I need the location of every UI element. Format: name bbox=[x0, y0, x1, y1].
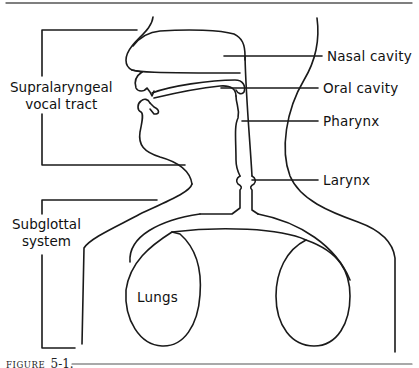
vocal-tract-diagram: Supralaryngeal vocal tract Subglottal sy… bbox=[0, 0, 419, 368]
trachea-left bbox=[200, 176, 241, 214]
bronchus-outer-right bbox=[258, 214, 350, 280]
nasal-cavity-label: Nasal cavity bbox=[327, 48, 412, 64]
figure-caption: FIGURE 5-1. bbox=[6, 353, 74, 368]
subglottal-bracket-bottom bbox=[42, 255, 75, 348]
subglottal-label: Subglottal system bbox=[12, 216, 81, 250]
subglottal-line2: system bbox=[12, 233, 81, 250]
supralaryngeal-line1: Supralaryngeal bbox=[10, 79, 113, 96]
chin-neck-front bbox=[138, 99, 192, 184]
subglottal-line1: Subglottal bbox=[12, 216, 81, 233]
caption-number: 5-1. bbox=[51, 357, 74, 368]
supralaryngeal-bracket-top bbox=[42, 30, 137, 76]
lower-teeth bbox=[150, 103, 159, 114]
left-shoulder bbox=[82, 184, 192, 344]
supralaryngeal-line2: vocal tract bbox=[10, 96, 113, 113]
pharynx-front-wall bbox=[236, 96, 241, 176]
trachea-right bbox=[251, 176, 258, 214]
bronchus-inner-arch bbox=[172, 229, 306, 240]
upper-lip bbox=[135, 72, 154, 96]
pharynx-back-wall bbox=[245, 56, 252, 176]
lungs-label: Lungs bbox=[137, 289, 178, 305]
larynx-label: Larynx bbox=[323, 172, 370, 188]
supralaryngeal-label: Supralaryngeal vocal tract bbox=[10, 79, 113, 113]
subglottal-bracket-top bbox=[42, 200, 157, 214]
caption-word: FIGURE bbox=[6, 360, 45, 368]
pharynx-label: Pharynx bbox=[323, 113, 379, 129]
hard-palate bbox=[132, 70, 240, 73]
right-lung-outline bbox=[276, 240, 350, 346]
nose-outline bbox=[126, 17, 153, 72]
bronchus-outer-left bbox=[130, 214, 200, 262]
oral-cavity-label: Oral cavity bbox=[323, 80, 398, 96]
